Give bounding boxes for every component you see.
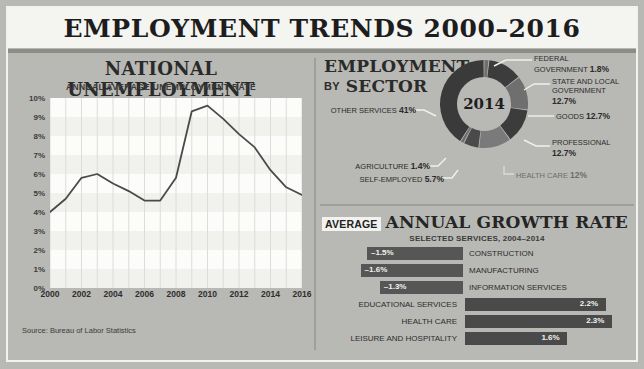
line-chart: 0%1%2%3%4%5%6%7%8%9%10% 2000200220042006… <box>14 98 308 310</box>
growth-bar-label: INFORMATION SERVICES <box>469 283 567 292</box>
callout-goods: GOODS 12.7% <box>556 111 610 122</box>
x-axis-tick: 2006 <box>135 289 154 299</box>
x-axis-tick: 2004 <box>104 289 123 299</box>
y-axis-tick: 2% <box>33 246 45 255</box>
horizontal-divider <box>320 204 634 206</box>
sector-title-sector: SECTOR <box>346 76 428 96</box>
growth-bar-row: 2.3%HEALTH CARE <box>322 314 632 329</box>
source-note: Source: Bureau of Labor Statistics <box>22 326 136 335</box>
growth-bar-label: EDUCATIONAL SERVICES <box>358 300 457 309</box>
callout-professional: PROFESSIONAL 12.7% <box>552 139 610 159</box>
line-chart-subtitle: ANNUAL AVERAGE UNEMPLOYMENT RATE <box>8 82 314 92</box>
line-chart-title: NATIONAL UNEMPLOYMENT <box>8 58 314 100</box>
poster-title-band: EMPLOYMENT TRENDS 2000–2016 <box>8 8 636 48</box>
y-axis-tick: 1% <box>33 265 45 274</box>
x-axis-tick: 2010 <box>198 289 217 299</box>
y-axis-tick: 5% <box>33 189 45 198</box>
growth-bar-label: MANUFACTURING <box>469 266 539 275</box>
plot-area <box>50 98 302 288</box>
callout-federal-government: FEDERAL GOVERNMENT 1.8% <box>534 55 609 75</box>
growth-bar-label: HEALTH CARE <box>402 317 457 326</box>
growth-bar-row: –1.6%MANUFACTURING <box>322 263 632 278</box>
y-axis-tick: 6% <box>33 170 45 179</box>
x-axis-tick: 2016 <box>293 289 312 299</box>
vertical-divider <box>314 58 316 350</box>
growth-title-row: AVERAGE ANNUAL GROWTH RATE <box>322 212 634 232</box>
growth-bar-value: –1.5% <box>371 248 394 257</box>
sector-title-by: BY <box>324 80 340 92</box>
callout-self-employed: SELF-EMPLOYED 5.7% <box>360 174 444 185</box>
y-axis-tick: 7% <box>33 151 45 160</box>
y-axis-tick: 9% <box>33 113 45 122</box>
y-axis-tick: 8% <box>33 132 45 141</box>
poster-body: NATIONAL UNEMPLOYMENT ANNUAL AVERAGE UNE… <box>8 54 636 356</box>
growth-bar-value: –1.3% <box>384 282 407 291</box>
growth-title-prefix: AVERAGE <box>322 217 381 231</box>
growth-bar-label: LEISURE AND HOSPITALITY <box>350 334 457 343</box>
growth-bar-label: CONSTRUCTION <box>469 249 533 258</box>
sector-title-line2: BY SECTOR <box>324 78 427 95</box>
callout-other-services: OTHER SERVICES 41% <box>331 105 416 116</box>
y-axis-tick: 4% <box>33 208 45 217</box>
callout-agriculture: AGRICULTURE 1.4% <box>355 161 430 172</box>
x-axis-tick: 2002 <box>72 289 91 299</box>
x-axis: 200020022004200620082010201220142016 <box>50 289 302 305</box>
y-axis-tick: 10% <box>29 94 45 103</box>
infographic-poster: EMPLOYMENT TRENDS 2000–2016 NATIONAL UNE… <box>0 0 644 369</box>
growth-bar-value: 2.3% <box>586 316 604 325</box>
growth-bar-value: 1.6% <box>541 333 559 342</box>
growth-bar-row: 2.2%EDUCATIONAL SERVICES <box>322 297 632 312</box>
growth-bar-row: –1.5%CONSTRUCTION <box>322 246 632 261</box>
page-title: EMPLOYMENT TRENDS 2000–2016 <box>63 14 580 43</box>
growth-bar-row: –1.3%INFORMATION SERVICES <box>322 280 632 295</box>
growth-bar-value: –1.6% <box>365 265 388 274</box>
x-axis-tick: 2014 <box>261 289 280 299</box>
x-axis-tick: 2012 <box>230 289 249 299</box>
y-axis-tick: 3% <box>33 227 45 236</box>
x-axis-tick: 2000 <box>41 289 60 299</box>
callout-state-and-local-government: STATE AND LOCAL GOVERNMENT 12.7% <box>552 78 619 107</box>
title-divider <box>8 49 636 53</box>
y-axis: 0%1%2%3%4%5%6%7%8%9%10% <box>14 98 48 288</box>
national-unemployment-panel: NATIONAL UNEMPLOYMENT ANNUAL AVERAGE UNE… <box>8 54 314 356</box>
right-column: EMPLOYMENT BY SECTOR 2014 <box>318 54 636 356</box>
growth-bar-chart: –1.5%CONSTRUCTION–1.6%MANUFACTURING–1.3%… <box>322 246 632 346</box>
donut-center-year: 2014 <box>436 56 532 152</box>
growth-bar-row: 1.6%LEISURE AND HOSPITALITY <box>322 331 632 346</box>
growth-bar-value: 2.2% <box>580 299 598 308</box>
growth-subtitle: SELECTED SERVICES, 2004–2014 <box>318 234 636 243</box>
x-axis-tick: 2008 <box>167 289 186 299</box>
growth-title-main: ANNUAL GROWTH RATE <box>386 212 628 232</box>
callout-health-care: HEALTH CARE 12% <box>516 170 587 181</box>
unemployment-line-series <box>50 98 302 288</box>
